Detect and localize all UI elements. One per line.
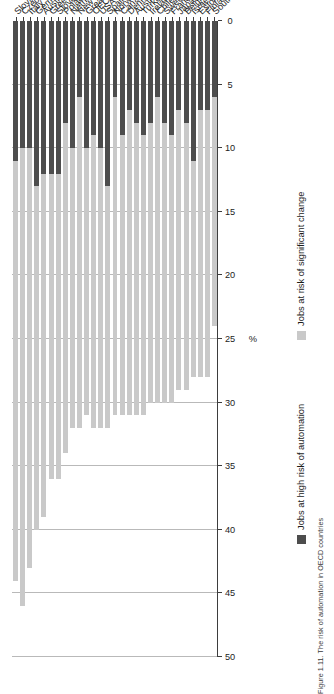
legend-label: Jobs at high risk of automation xyxy=(296,404,306,530)
bar-segment-significant-change xyxy=(148,123,153,403)
bar-segment-high-risk xyxy=(169,21,174,135)
category-axis-tick xyxy=(207,17,208,21)
bar-segment-high-risk xyxy=(27,21,32,148)
bar-group[interactable] xyxy=(148,21,153,657)
bar-group[interactable] xyxy=(91,21,96,657)
category-axis-tick xyxy=(16,17,17,21)
value-axis-tick-label: 5 xyxy=(217,80,243,90)
bar-segment-significant-change xyxy=(20,148,25,606)
bar-group[interactable] xyxy=(63,21,68,657)
category-axis-tick xyxy=(94,17,95,21)
value-axis-tick-label: 35 xyxy=(217,461,243,471)
category-axis-label: South Korea xyxy=(211,0,254,17)
value-axis-tick-label: 15 xyxy=(217,207,243,217)
value-axis-title: % xyxy=(249,334,257,344)
bar-segment-significant-change xyxy=(84,148,89,415)
bar-segment-high-risk xyxy=(191,21,196,161)
value-axis-tick-label: 30 xyxy=(217,398,243,408)
category-axis-tick xyxy=(186,17,187,21)
bar-segment-significant-change xyxy=(134,123,139,416)
bar-segment-high-risk xyxy=(184,21,189,123)
bar-segment-significant-change xyxy=(105,186,110,428)
bar-group[interactable] xyxy=(13,21,18,657)
bar-segment-high-risk xyxy=(98,21,103,148)
bar-segment-significant-change xyxy=(113,97,118,415)
legend-swatch-icon xyxy=(297,331,306,340)
bar-segment-significant-change xyxy=(77,97,82,428)
category-axis-tick xyxy=(30,17,31,21)
bar-segment-high-risk xyxy=(56,21,61,174)
bar-group[interactable] xyxy=(84,21,89,657)
category-axis-tick xyxy=(58,17,59,21)
bar-group[interactable] xyxy=(134,21,139,657)
bar-segment-high-risk xyxy=(49,21,54,174)
bar-group[interactable] xyxy=(141,21,146,657)
bar-segment-high-risk xyxy=(20,21,25,148)
bar-group[interactable] xyxy=(113,21,118,657)
bar-segment-high-risk xyxy=(41,21,46,174)
bar-segment-high-risk xyxy=(134,21,139,123)
category-axis-tick xyxy=(151,17,152,21)
bar-group[interactable] xyxy=(155,21,160,657)
bar-group[interactable] xyxy=(191,21,196,657)
legend-swatch-icon xyxy=(297,535,306,544)
bar-group[interactable] xyxy=(34,21,39,657)
bar-group[interactable] xyxy=(20,21,25,657)
category-axis-tick xyxy=(65,17,66,21)
bar-segment-significant-change xyxy=(98,148,103,428)
bar-segment-high-risk xyxy=(155,21,160,97)
value-axis-tick-label: 40 xyxy=(217,525,243,535)
legend-item-0[interactable]: Jobs at high risk of automation xyxy=(296,404,306,544)
category-axis-tick xyxy=(51,17,52,21)
bar-group[interactable] xyxy=(198,21,203,657)
bar-segment-significant-change xyxy=(198,110,203,377)
bar-group[interactable] xyxy=(98,21,103,657)
category-axis-tick xyxy=(172,17,173,21)
bar-segment-high-risk xyxy=(63,21,68,123)
bar-segment-significant-change xyxy=(169,136,174,403)
category-axis-tick xyxy=(143,17,144,21)
category-axis-tick xyxy=(129,17,130,21)
bar-segment-significant-change xyxy=(212,97,217,326)
bar-group[interactable] xyxy=(120,21,125,657)
bar-group[interactable] xyxy=(205,21,210,657)
bar-segment-significant-change xyxy=(41,174,46,517)
bar-group[interactable] xyxy=(212,21,217,657)
rotated-chart-canvas: Figure 1.11. The risk of automation in O… xyxy=(0,0,334,694)
chart-legend: Jobs at high risk of automationJobs at r… xyxy=(296,192,306,544)
bar-segment-significant-change xyxy=(127,110,132,415)
bar-group[interactable] xyxy=(49,21,54,657)
bar-segment-significant-change xyxy=(162,123,167,403)
category-axis-tick xyxy=(193,17,194,21)
bar-group[interactable] xyxy=(105,21,110,657)
bar-group[interactable] xyxy=(169,21,174,657)
legend-item-1[interactable]: Jobs at risk of significant change xyxy=(296,192,306,340)
category-axis-tick xyxy=(214,17,215,21)
bar-segment-significant-change xyxy=(155,97,160,402)
bar-group[interactable] xyxy=(41,21,46,657)
bar-segment-high-risk xyxy=(212,21,217,97)
bar-group[interactable] xyxy=(27,21,32,657)
bar-group[interactable] xyxy=(127,21,132,657)
bar-segment-significant-change xyxy=(13,161,18,581)
bar-group[interactable] xyxy=(56,21,61,657)
bar-group[interactable] xyxy=(176,21,181,657)
legend-label: Jobs at risk of significant change xyxy=(296,192,306,326)
bar-group[interactable] xyxy=(162,21,167,657)
bar-segment-significant-change xyxy=(141,136,146,416)
value-axis-tick-label: 0 xyxy=(217,16,243,26)
bar-segment-significant-change xyxy=(34,186,39,529)
bar-group[interactable] xyxy=(184,21,189,657)
bar-group[interactable] xyxy=(70,21,75,657)
bar-segment-high-risk xyxy=(13,21,18,161)
bar-segment-high-risk xyxy=(77,21,82,97)
category-axis-tick xyxy=(87,17,88,21)
bar-segment-high-risk xyxy=(105,21,110,186)
chart-figure: Figure 1.11. The risk of automation in O… xyxy=(0,0,334,694)
category-axis-tick xyxy=(179,17,180,21)
bar-segment-significant-change xyxy=(184,123,189,390)
value-axis-tick-label: 50 xyxy=(217,652,243,662)
bar-group[interactable] xyxy=(77,21,82,657)
bar-segment-significant-change xyxy=(91,136,96,429)
category-axis-tick xyxy=(136,17,137,21)
